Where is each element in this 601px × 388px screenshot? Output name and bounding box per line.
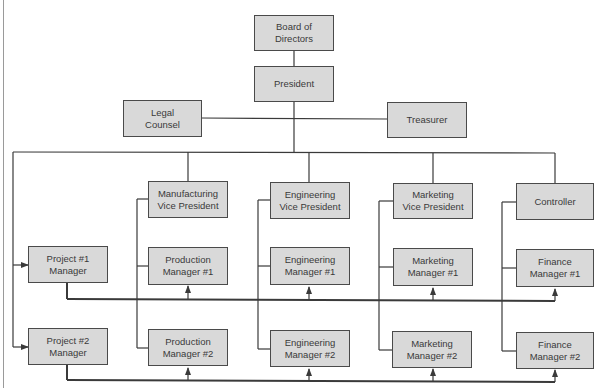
finance-manager-1-box: Finance Manager #1 — [516, 249, 594, 287]
box-label: Marketing — [411, 338, 453, 350]
box-label: Manufacturing — [158, 188, 218, 200]
box-label: Manager #2 — [285, 349, 336, 361]
box-label: Controller — [534, 196, 575, 208]
box-label: Production — [165, 254, 210, 266]
box-label: Project #2 — [47, 335, 90, 347]
box-label: Treasurer — [407, 114, 448, 126]
box-label: Finance — [538, 256, 572, 268]
box-label: Counsel — [145, 119, 180, 131]
production-manager-2-box: Production Manager #2 — [148, 329, 228, 366]
box-label: Board of — [276, 21, 312, 33]
box-label: Manager #2 — [530, 351, 581, 363]
manufacturing-vp-box: Manufacturing Vice President — [148, 181, 228, 218]
box-label: Engineering — [285, 254, 336, 266]
box-label: Directors — [275, 33, 313, 45]
engineering-manager-1-box: Engineering Manager #1 — [270, 247, 350, 285]
box-label: Manager — [49, 347, 87, 359]
controller-box: Controller — [516, 183, 594, 220]
box-label: Marketing — [412, 255, 454, 267]
marketing-manager-1-box: Marketing Manager #1 — [393, 248, 473, 286]
box-label: Engineering — [285, 337, 336, 349]
box-label: Manager #1 — [163, 266, 214, 278]
board-of-directors-box: Board of Directors — [254, 15, 334, 51]
box-label: Manager — [49, 265, 87, 277]
box-label: Engineering — [285, 189, 336, 201]
box-label: Production — [165, 336, 210, 348]
box-label: Manager #1 — [530, 268, 581, 280]
finance-manager-2-box: Finance Manager #2 — [516, 332, 594, 369]
box-label: Marketing — [412, 189, 454, 201]
box-label: Manager #2 — [407, 350, 458, 362]
project-1-manager-box: Project #1 Manager — [28, 246, 108, 283]
engineering-vp-box: Engineering Vice President — [270, 182, 350, 219]
engineering-manager-2-box: Engineering Manager #2 — [270, 330, 350, 367]
box-label: Manager #2 — [163, 348, 214, 360]
production-manager-1-box: Production Manager #1 — [148, 247, 228, 285]
marketing-vp-box: Marketing Vice President — [393, 183, 473, 219]
marketing-manager-2-box: Marketing Manager #2 — [392, 331, 472, 368]
treasurer-box: Treasurer — [387, 102, 467, 138]
president-box: President — [254, 66, 334, 102]
project-2-manager-box: Project #2 Manager — [28, 328, 108, 365]
box-label: Manager #1 — [285, 266, 336, 278]
box-label: Vice President — [279, 201, 340, 213]
box-label: Manager #1 — [408, 267, 459, 279]
box-label: President — [274, 78, 314, 90]
box-label: Vice President — [402, 201, 463, 213]
legal-counsel-box: Legal Counsel — [123, 100, 202, 137]
box-label: Finance — [538, 339, 572, 351]
box-label: Legal — [151, 107, 174, 119]
box-label: Vice President — [157, 200, 218, 212]
box-label: Project #1 — [47, 253, 90, 265]
